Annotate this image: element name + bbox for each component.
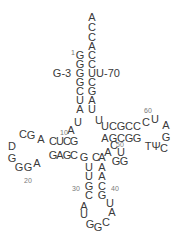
variable-loop-nucleotide: G — [120, 156, 129, 167]
d-loop-nucleotide: A — [37, 134, 44, 145]
t-stem-top-nucleotide: C — [133, 121, 141, 132]
junction-nucleotide: U — [95, 115, 103, 126]
acceptor-stem-5p-nucleotide: A — [76, 104, 83, 115]
d-loop-nucleotide: C — [19, 129, 27, 140]
anticodon-loop-nucleotide: C — [102, 217, 110, 228]
t-loop-nucleotide: T — [145, 141, 152, 152]
linker-nucleotide: C — [92, 152, 100, 163]
mutation-label-u70: U-70 — [96, 68, 120, 79]
d-loop-nucleotide: G — [27, 130, 36, 141]
t-loop-nucleotide: U — [151, 114, 159, 125]
anticodon-stem-3p-nucleotide: G — [98, 190, 107, 201]
position-number-1: 1 — [71, 49, 75, 56]
t-loop-nucleotide: C — [160, 143, 168, 154]
junction-nucleotide: U — [74, 117, 82, 128]
position-number-40: 40 — [111, 185, 119, 192]
t-stem-bottom-nucleotide: G — [109, 133, 118, 144]
d-loop-nucleotide: A — [33, 158, 40, 169]
d-loop-nucleotide: G — [24, 162, 33, 173]
t-stem-bottom-nucleotide: A — [101, 133, 108, 144]
position-number-20: 20 — [24, 177, 32, 184]
t-loop-nucleotide: A — [162, 120, 169, 131]
position-number-60: 60 — [144, 107, 152, 114]
t-stem-top-nucleotide: G — [117, 121, 126, 132]
d-loop-nucleotide: D — [8, 141, 16, 152]
t-loop-nucleotide: Ψ — [151, 141, 160, 152]
d-loop-nucleotide: G — [15, 162, 24, 173]
anticodon-loop-nucleotide: G — [94, 222, 103, 233]
d-stem-bottom-nucleotide: C — [70, 150, 78, 161]
mutation-label-g3: G-3 — [53, 68, 71, 79]
d-stem-top-nucleotide: G — [70, 136, 79, 147]
t-stem-bottom-nucleotide: G — [133, 133, 142, 144]
position-number-30: 30 — [72, 185, 80, 192]
anticodon-loop-nucleotide: U — [106, 198, 114, 209]
t-stem-top-nucleotide: C — [125, 121, 133, 132]
t-loop-nucleotide: C — [142, 117, 150, 128]
trna-cloverleaf-diagram: ACCAGGGGCUACCUCGAU1G-3U-70UA10CUCGGAGCAG… — [0, 0, 183, 244]
